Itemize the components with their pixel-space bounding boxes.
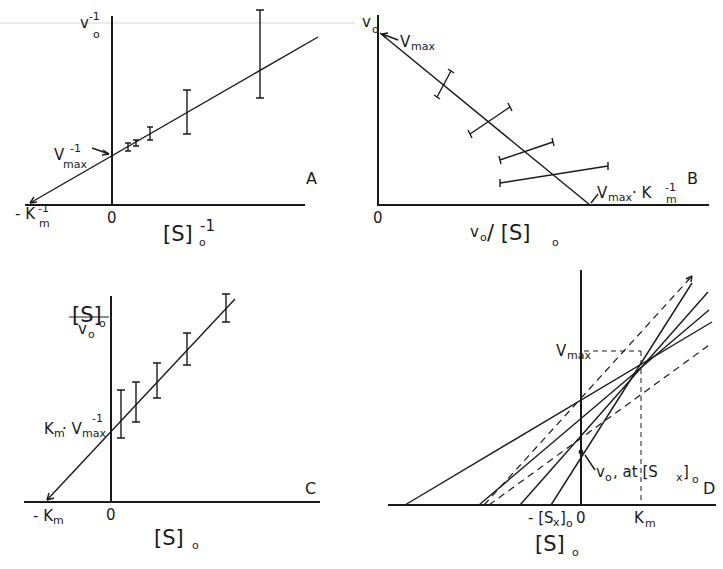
error-bar [468,103,512,138]
panel-c-y-denominator: v [78,320,87,338]
panel-b-x-label-sub: o [480,231,487,244]
panel-b-x-intercept-label: V [597,184,608,202]
panel-a-neg-km-inv-label: - K [15,205,36,223]
error-bar [183,90,191,134]
panel-c-y-intercept-mid: · V [62,420,83,438]
panel-a-x-label-sub: o [199,236,206,249]
panel-d-neg-sx-sub2: o [566,517,573,530]
kinetics-figure: v-1 o V -1 max - K -1 m 0 [S] -1 o A v o [0,0,723,569]
panel-c-y-intercept-sup: -1 [92,412,103,425]
panel-d-x-label: [S] [535,532,565,556]
panel-d-vo-pointer [585,455,595,470]
panel-b-x-intercept-sub: max [608,191,632,204]
panel-b-x-label-mid: / [S] [487,221,530,245]
panel-a-letter: A [306,169,317,188]
panel-c-y-intercept-sub2: max [82,427,106,440]
panel-c-y-numerator-sub: o [99,317,106,330]
panel-a-vmax-inv-sup: -1 [70,142,81,155]
panel-d-annotation-x: x [676,471,683,484]
panel-a-x-label: [S] [163,222,193,246]
panel-c-neg-km-label: - K [33,507,54,525]
panel-d-annotation-end: ] [683,463,689,481]
panel-b-y-label: v [362,13,371,31]
panel-d-km-label: K [634,509,645,527]
panel-d-km-sub: m [645,517,656,530]
panel-d-annotation-mid: , at [S [613,463,658,481]
panel-d-origin: 0 [576,509,586,527]
error-bar [117,390,125,438]
panel-b-y-label-sub: o [372,23,379,36]
panel-a-y-label-sub: o [93,28,100,41]
panel-b-x-intercept-mid: · K [632,184,653,202]
panel-d-vo-marker [579,450,584,455]
panel-d-vmax-sub: max [567,349,591,362]
panel-b-origin: 0 [373,209,383,227]
panel-d-x-label-sub: o [572,546,579,559]
panel-b-vmax-sub: max [411,40,435,53]
panel-c-x-label-sub: o [192,539,199,552]
panel-d-letter: D [703,479,715,498]
error-bar [500,162,608,187]
panel-c-fit-line [47,299,235,500]
panel-b-x-intercept-sub2: m [666,193,677,206]
panel-c-error-bars [117,294,230,438]
panel-b: v o V max V max · K -1 m B 0 v o / [S] o [362,13,709,249]
panel-a-vmax-inv-sub: max [63,158,87,171]
panel-a-neg-km-inv-sub: m [39,217,50,230]
panel-d-annotation-v: v [596,463,605,481]
error-bar [499,138,554,164]
error-bar [434,69,454,99]
panel-d: V max v o , at [S x ] o D - [S x ] o 0 K… [388,270,716,559]
error-bar [147,127,153,140]
panel-c-neg-km-sub: m [53,514,64,527]
error-bar [222,294,230,322]
panel-b-error-bars [434,69,608,187]
panel-d-vmax-label: V [556,342,567,360]
panel-a: v-1 o V -1 max - K -1 m 0 [S] -1 o A [15,10,318,249]
error-bar [153,363,161,398]
panel-b-vmax-label: V [400,33,411,51]
panel-a-origin: 0 [107,209,117,227]
panel-d-annotation-sub: o [692,473,699,486]
panel-c-letter: C [305,479,316,498]
panel-c: [S] o v o K m · V max -1 - K m 0 [S] o C [24,294,320,552]
panel-d-neg-sx-end: ] [560,509,566,527]
panel-c-origin: 0 [106,506,116,524]
panel-a-x-label-sup: -1 [200,217,215,235]
panel-b-x-label: v [470,223,479,241]
panel-d-dashed-upper [484,276,692,505]
panel-a-neg-km-inv-sup: -1 [38,202,49,215]
panel-d-line-2 [479,310,709,505]
panel-c-x-label: [S] [154,526,184,550]
error-bar [183,333,191,365]
panel-a-fit-line [30,37,318,203]
panel-c-y-denominator-sub: o [88,328,95,341]
panel-d-annotation-v-sub: o [605,471,612,484]
panel-b-letter: B [687,169,698,188]
panel-d-neg-sx-sub: x [553,516,560,529]
panel-d-neg-sx-label: - [S [528,509,554,527]
panel-b-x-label-sub2: o [552,236,559,249]
panel-b-fit-line [380,33,590,205]
